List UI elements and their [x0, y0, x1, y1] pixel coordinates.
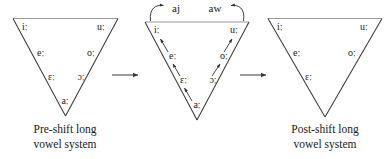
vowel-shift-figure: iː uː eː oː ɛː ɔː aː Pre-shift long vowe…	[0, 0, 388, 159]
vowel-u-long: uː	[97, 21, 105, 32]
triangle-right-edge	[197, 22, 249, 120]
diphthong-aw: aw	[209, 2, 222, 14]
triangle-right-edge	[325, 19, 382, 118]
raise-arrow-e-to-i	[161, 39, 169, 52]
vowel-o-long: oː	[348, 47, 356, 58]
vowel-open-e-long: ɛː	[48, 71, 55, 82]
arc-arrow-aw	[231, 5, 244, 21]
panel-shift-in-progress: aj aw iː uː eː oː ɛː ɔː aː	[145, 2, 249, 120]
panel-pre-shift: iː uː eː oː ɛː ɔː aː Pre-shift long vowe…	[13, 19, 118, 152]
vowel-u-long: uː	[230, 24, 238, 35]
vowel-a-long: aː	[193, 99, 200, 110]
triangle-right-edge	[66, 19, 119, 117]
arc-arrow-aj	[150, 5, 163, 21]
vowel-i-long: iː	[277, 21, 283, 32]
vowel-open-o-long: ɔː	[77, 71, 84, 82]
vowel-open-o-long: ɔː	[209, 74, 216, 85]
vowel-e-long: eː	[37, 47, 44, 58]
vowel-open-e-long: ɛː	[180, 74, 187, 85]
vowel-e-long: eː	[293, 47, 300, 58]
caption-pre-shift-line2: vowel system	[34, 138, 97, 151]
triangle-left-edge	[13, 19, 66, 117]
vowel-a-long: aː	[61, 95, 68, 106]
vowel-o-long: oː	[87, 47, 95, 58]
vowel-e-long: eː	[169, 50, 176, 61]
raise-arrow-open-e-to-e	[173, 64, 180, 76]
caption-post-shift-line2: vowel system	[294, 138, 357, 151]
raise-arrow-o-to-u	[224, 39, 232, 52]
panel-post-shift: iː uː eː oː ɛː Post-shift long vowel sys…	[268, 19, 382, 152]
triangle-left-edge	[145, 22, 197, 120]
caption-pre-shift-line1: Pre-shift long	[34, 123, 97, 136]
vowel-open-e-long: ɛː	[305, 71, 312, 82]
caption-post-shift-line1: Post-shift long	[291, 123, 359, 136]
diphthong-aj: aj	[172, 2, 180, 14]
triangle-left-edge	[268, 19, 325, 118]
vowel-i-long: iː	[22, 21, 28, 32]
vowel-i-long: iː	[154, 24, 160, 35]
vowel-u-long: uː	[360, 21, 368, 32]
